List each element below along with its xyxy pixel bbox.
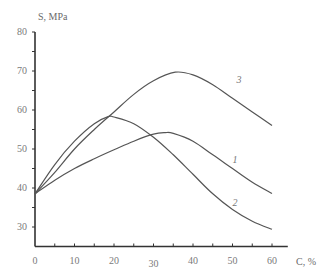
- y-tick-label: 80: [17, 26, 27, 37]
- x-tick-label: 40: [188, 255, 198, 266]
- x-tick-label: 0: [33, 255, 38, 266]
- x-axis-title: C, %: [296, 256, 316, 267]
- x-tick-label: 10: [70, 255, 80, 266]
- x-tick-label: 50: [228, 255, 238, 266]
- curve-3: [35, 72, 272, 194]
- curve-label-3: 3: [235, 74, 241, 85]
- curve-labels: 123: [233, 74, 242, 208]
- x-tick-label: 20: [109, 255, 119, 266]
- y-tick-label: 70: [17, 65, 27, 76]
- y-tick-label: 40: [17, 182, 27, 193]
- axes: 3040506070800102030405060: [17, 26, 288, 269]
- y-axis-title: S, MPa: [38, 11, 68, 22]
- curve-2: [35, 116, 272, 229]
- x-tick-label: 60: [267, 255, 277, 266]
- y-tick-label: 30: [17, 221, 27, 232]
- y-tick-label: 60: [17, 104, 27, 115]
- curve-label-1: 1: [233, 154, 238, 165]
- y-tick-label: 50: [17, 143, 27, 154]
- x-tick-label: 30: [149, 258, 159, 269]
- curve-label-2: 2: [233, 197, 238, 208]
- line-chart: 3040506070800102030405060 123 S, MPa C, …: [0, 0, 332, 280]
